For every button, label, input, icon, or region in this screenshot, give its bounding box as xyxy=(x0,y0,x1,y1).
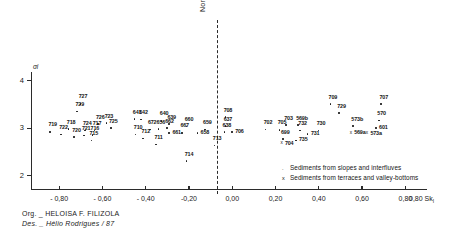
cross-marker-icon: x xyxy=(349,131,353,135)
y-tick-label: 2 xyxy=(12,172,24,180)
data-point-label: 713 xyxy=(213,136,222,142)
data-point-label: 729 xyxy=(337,104,346,110)
dot-marker-icon xyxy=(380,103,382,105)
x-tick-label: 0,20 xyxy=(256,195,296,203)
dot-marker-icon xyxy=(295,140,297,142)
y-tick-label: 3 xyxy=(12,124,24,132)
x-axis-line xyxy=(31,189,427,190)
data-point-label: 720 xyxy=(72,128,81,134)
x-tick xyxy=(188,186,189,190)
dot-marker-icon xyxy=(142,138,144,140)
dot-marker-icon xyxy=(155,144,157,146)
dot-marker-icon xyxy=(135,134,137,136)
data-point-label: 704 xyxy=(285,141,294,147)
x-tick-label: - 0,40 xyxy=(126,195,166,203)
data-point-label: 656 xyxy=(157,120,166,126)
dot-marker-icon xyxy=(134,118,136,120)
data-point-label: 711 xyxy=(154,135,162,141)
x-tick xyxy=(232,186,233,190)
normal-curve-label: Normal curve xyxy=(199,0,207,12)
dot-marker-icon xyxy=(158,128,160,130)
data-point-label: 735 xyxy=(299,137,308,143)
dot-marker-icon xyxy=(110,127,112,129)
x-tick xyxy=(318,186,319,190)
y-axis-title: σi xyxy=(33,63,38,70)
data-point-label: 667 xyxy=(180,123,189,129)
data-point-label: 722 xyxy=(59,125,68,131)
x-tick xyxy=(361,186,362,190)
legend-label: Sediments from terraces and valley-botto… xyxy=(290,174,418,181)
dot-marker-icon xyxy=(307,133,309,135)
data-point-label: 706 xyxy=(235,129,244,135)
dot-marker-icon xyxy=(181,132,183,134)
credits-block: Org. _ HELOISA F. FILIZOLA Des. _ Hélio … xyxy=(22,209,120,229)
x-tick xyxy=(102,186,103,190)
dot-marker-icon xyxy=(91,140,93,142)
y-tick-label: 4 xyxy=(12,77,24,85)
dot-marker-icon xyxy=(168,132,170,134)
dot-marker-icon xyxy=(186,160,188,162)
data-point-label: 732 xyxy=(298,121,307,127)
credit-org: Org. _ HELOISA F. FILIZOLA xyxy=(22,209,120,219)
dot-marker-icon xyxy=(214,145,216,147)
data-point-label: 705 xyxy=(278,120,287,126)
x-tick-label: 0,40 xyxy=(299,195,339,203)
normal-curve-reference-line xyxy=(217,20,218,194)
data-point-label: 662 xyxy=(165,119,174,125)
dot-marker-icon xyxy=(224,131,226,133)
data-point-label: 727 xyxy=(79,94,88,100)
data-point-label: 708 xyxy=(224,108,233,114)
x-tick xyxy=(145,186,146,190)
dot-marker-icon xyxy=(73,136,75,138)
x-tick xyxy=(275,186,276,190)
dot-marker-icon xyxy=(140,119,142,121)
data-point-label: 707 xyxy=(379,95,388,101)
dot-marker-icon xyxy=(60,134,62,136)
dot-marker-icon xyxy=(265,129,267,131)
data-point-label: 658 xyxy=(201,130,210,136)
data-point-label: 573b xyxy=(351,117,363,123)
x-tick xyxy=(405,186,406,190)
x-tick-label: 0,00 xyxy=(212,195,252,203)
legend-marker-icon: . xyxy=(282,163,284,173)
dot-marker-icon xyxy=(166,127,168,129)
x-tick-label: 0,60 xyxy=(342,195,382,203)
dot-marker-icon xyxy=(338,112,340,114)
data-point-label: 672 xyxy=(148,120,157,126)
y-tick xyxy=(27,80,31,81)
dot-marker-icon xyxy=(378,120,380,122)
dot-marker-icon xyxy=(83,135,85,137)
data-point-label: 661 xyxy=(172,130,181,136)
dot-marker-icon xyxy=(330,103,332,105)
x-tick-label: - 0,60 xyxy=(82,195,122,203)
data-point-label: 730 xyxy=(317,121,326,127)
legend: .Sediments from slopes and interfluvesxS… xyxy=(281,163,418,183)
data-point-label: 709 xyxy=(329,95,338,101)
y-axis-line xyxy=(31,72,32,189)
y-tick xyxy=(27,175,31,176)
legend-label: Sediments from slopes and interfluves xyxy=(290,164,401,171)
data-point-label: 569a xyxy=(354,130,365,136)
x-tick xyxy=(59,186,60,190)
data-point-label: 729 xyxy=(75,102,84,108)
x-tick-label: - 0,80 xyxy=(39,195,79,203)
dot-marker-icon xyxy=(231,131,233,133)
data-point-label: 659 xyxy=(203,120,212,126)
dot-marker-icon xyxy=(282,138,284,140)
x-tick-label: -0,20 xyxy=(169,195,209,203)
dot-marker-icon xyxy=(76,111,78,113)
x-tick-label: 0,80 xyxy=(385,195,425,203)
y-tick xyxy=(27,128,31,129)
data-point-label: 702 xyxy=(264,120,273,126)
data-point-label: 712 xyxy=(141,129,150,135)
credit-des: Des. _ Hélio Rodrigues / 87 xyxy=(22,219,120,229)
data-point-label: 715 xyxy=(90,131,99,137)
dot-marker-icon xyxy=(49,131,51,133)
data-point-label: 573a xyxy=(370,131,381,137)
dot-marker-icon xyxy=(375,127,377,129)
data-point-label: 725 xyxy=(109,119,118,125)
legend-item: .Sediments from slopes and interfluves xyxy=(281,163,418,173)
data-point-label: 642 xyxy=(139,110,148,116)
data-point-label: 699 xyxy=(281,130,290,136)
legend-marker-icon: x xyxy=(282,173,285,183)
